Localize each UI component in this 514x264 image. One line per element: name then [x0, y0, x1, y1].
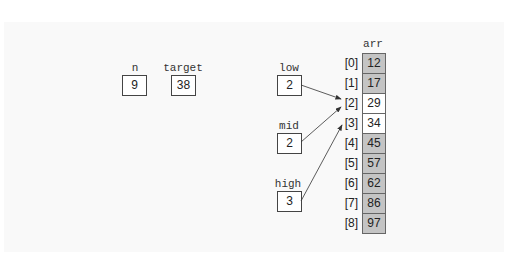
- arrow-mid: [301, 107, 341, 142]
- pointer-arrows: [0, 0, 514, 264]
- arrow-low: [301, 85, 341, 99]
